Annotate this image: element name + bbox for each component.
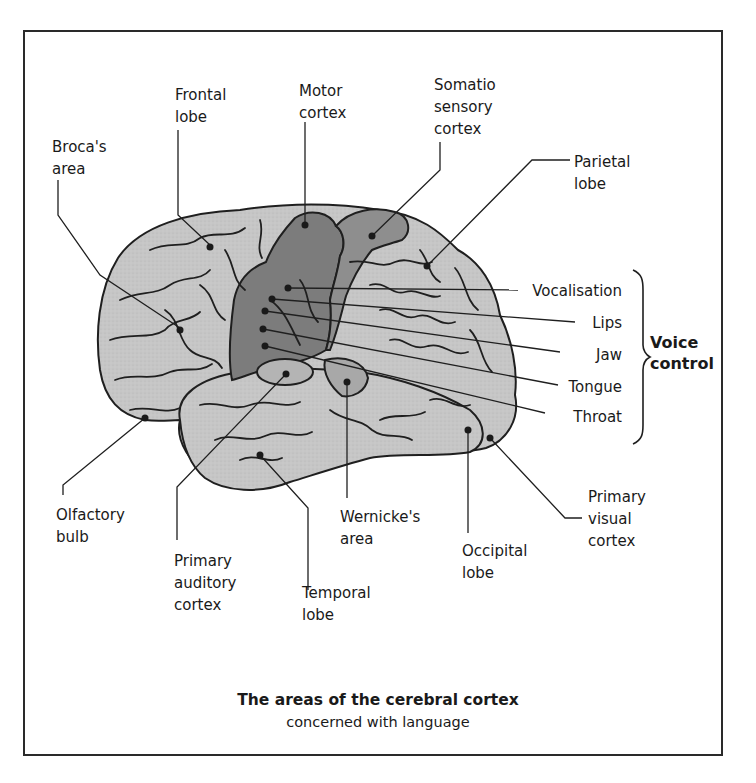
label-motor-cortex: Motor cortex — [299, 80, 346, 124]
label-temporal-lobe: Temporal lobe — [302, 582, 371, 626]
label-olfactory-bulb: Olfactory bulb — [56, 504, 125, 548]
brain-diagram — [0, 0, 756, 783]
voice-control-brace — [633, 270, 650, 444]
label-wernickes-area: Wernicke's area — [340, 506, 420, 550]
label-lips: Lips — [500, 312, 622, 334]
label-frontal-lobe: Frontal lobe — [175, 84, 226, 128]
caption-subtitle: concerned with language — [0, 711, 756, 733]
figure-caption: The areas of the cerebral cortex concern… — [0, 689, 756, 733]
label-brocas-area: Broca's area — [52, 136, 107, 180]
label-jaw: Jaw — [500, 344, 622, 366]
label-tongue: Tongue — [500, 376, 622, 398]
label-throat: Throat — [500, 406, 622, 428]
label-primary-auditory-cortex: Primary auditory cortex — [174, 550, 237, 616]
label-vocalisation: Vocalisation — [500, 280, 622, 302]
caption-title: The areas of the cerebral cortex — [0, 689, 756, 711]
label-occipital-lobe: Occipital lobe — [462, 540, 527, 584]
label-parietal-lobe: Parietal lobe — [574, 151, 630, 195]
label-voice-control: Voice control — [650, 332, 714, 374]
label-somatosensory-cortex: Somatio sensory cortex — [434, 74, 496, 140]
label-primary-visual-cortex: Primary visual cortex — [588, 486, 646, 552]
